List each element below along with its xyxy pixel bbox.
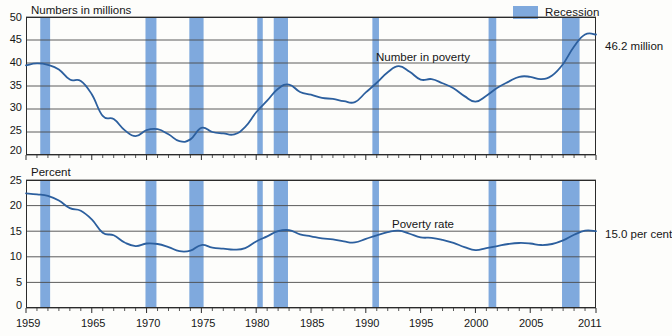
bottom-ytick-25: 25 [0, 175, 22, 186]
top-ytick-25: 25 [0, 125, 22, 136]
top-end-label: 46.2 million [605, 40, 663, 52]
top-ytick-35: 35 [0, 80, 22, 91]
recession-band [489, 180, 497, 308]
xtick-1995: 1995 [409, 318, 433, 329]
bottom-series-label: Poverty rate [392, 218, 454, 230]
xtick-1959: 1959 [16, 318, 40, 329]
recession-band [40, 180, 50, 308]
bottom-panel-plot [26, 180, 596, 308]
xtick-1985: 1985 [300, 318, 324, 329]
top-panel-plot [26, 17, 596, 155]
top-panel-axis-title: Numbers in millions [31, 4, 131, 16]
recession-band [257, 180, 262, 308]
top-ytick-50: 50 [0, 12, 22, 23]
recession-band [372, 180, 379, 308]
series-line [26, 193, 596, 251]
xtick-2005: 2005 [519, 318, 543, 329]
bottom-ytick-20: 20 [0, 200, 22, 211]
bottom-end-label: 15.0 per cent [605, 228, 672, 240]
xtick-1975: 1975 [191, 318, 215, 329]
bottom-panel-axis-title: Percent [31, 166, 71, 178]
xtick-1970: 1970 [136, 318, 160, 329]
bottom-ytick-5: 5 [0, 277, 22, 288]
series-line [26, 33, 596, 142]
top-series-label: Number in poverty [376, 51, 470, 63]
xtick-1990: 1990 [355, 318, 379, 329]
top-ytick-20: 20 [0, 145, 22, 156]
bottom-ytick-10: 10 [0, 251, 22, 262]
top-ytick-45: 45 [0, 34, 22, 45]
xtick-2000: 2000 [464, 318, 488, 329]
top-ytick-30: 30 [0, 102, 22, 113]
recession-band [274, 180, 288, 308]
top-ytick-40: 40 [0, 57, 22, 68]
recession-band [189, 180, 203, 308]
xtick-1965: 1965 [81, 318, 105, 329]
bottom-ytick-0: 0 [0, 300, 22, 311]
recession-band [562, 180, 580, 308]
bottom-ytick-15: 15 [0, 226, 22, 237]
xtick-2011: 2011 [578, 318, 602, 329]
xtick-1980: 1980 [245, 318, 269, 329]
